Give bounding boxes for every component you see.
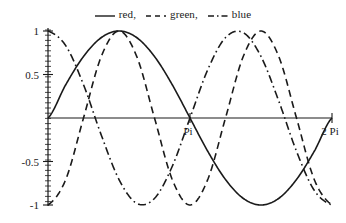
y-tick-label: -1 <box>30 199 39 211</box>
chart-figure: red, green, blue <box>0 0 346 223</box>
y-tick-label: 1 <box>34 25 40 37</box>
x-tick-label: Pi <box>183 125 192 137</box>
y-tick-label: -0.5 <box>22 156 40 168</box>
y-tick-label: 0.5 <box>25 69 39 81</box>
chart-plot-area: 10.5-0.5-1 Pi2 Pi <box>0 0 346 223</box>
x-tick-labels: Pi2 Pi <box>183 125 338 137</box>
y-tick-labels: 10.5-0.5-1 <box>22 25 40 211</box>
